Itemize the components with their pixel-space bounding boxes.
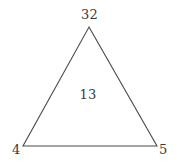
apex-vertex-label: 32 — [0, 8, 179, 21]
triangle-figure: 32 13 4 5 — [0, 0, 179, 163]
triangle-shape — [0, 0, 179, 163]
bottom-right-vertex-label: 5 — [159, 143, 167, 156]
interior-label: 13 — [0, 88, 176, 101]
bottom-left-vertex-label: 4 — [12, 143, 20, 156]
